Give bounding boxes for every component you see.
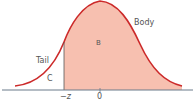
region-c-label: C: [47, 75, 53, 83]
zero-label: 0: [97, 93, 102, 101]
neg-z-label: −z: [60, 93, 71, 101]
region-b-label: B: [96, 40, 101, 47]
body-label: Body: [134, 19, 154, 27]
normal-curve-diagram: Body Tail B C −z 0: [0, 0, 193, 108]
tail-label: Tail: [36, 57, 49, 65]
